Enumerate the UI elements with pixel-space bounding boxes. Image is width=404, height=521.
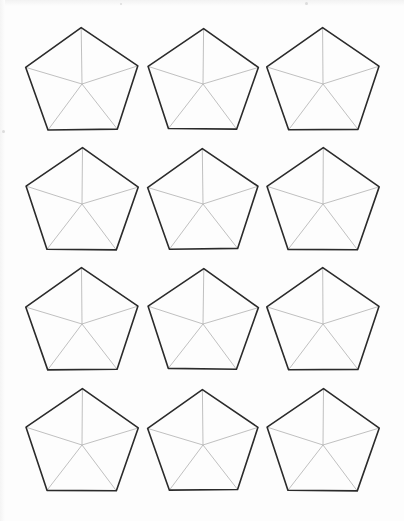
- pentagon-spoke-5: [26, 186, 82, 204]
- pentagon-spoke-1: [82, 148, 83, 204]
- pentagon-spoke-2: [82, 428, 138, 445]
- pentagon-spoke-1: [202, 390, 203, 445]
- pentagon-spoke-2: [203, 427, 258, 445]
- pentagon-spoke-5: [26, 307, 82, 324]
- pentagon-spoke-1: [203, 29, 204, 84]
- pentagon-spoke-4: [48, 84, 82, 130]
- pentagon-spoke-4: [168, 324, 203, 368]
- pentagon-spoke-2: [323, 428, 379, 445]
- pentagon-spoke-3: [323, 84, 358, 129]
- pentagon-spoke-4: [289, 324, 323, 370]
- pentagon-cell[interactable]: [148, 390, 258, 491]
- pentagon-spoke-5: [267, 67, 323, 84]
- pentagon-spoke-2: [203, 308, 258, 324]
- pentagon-spoke-3: [82, 445, 116, 491]
- pentagon-spoke-2: [82, 66, 138, 84]
- pentagon-spoke-2: [323, 66, 379, 84]
- pentagon-spoke-1: [202, 149, 203, 204]
- pentagon-cell[interactable]: [267, 148, 379, 250]
- pentagon-spoke-5: [148, 66, 203, 84]
- pentagon-spoke-5: [148, 428, 203, 445]
- pentagon-spoke-3: [82, 84, 117, 129]
- pentagon-spoke-3: [203, 204, 238, 248]
- pentagon-spoke-3: [82, 324, 117, 369]
- pentagon-cell[interactable]: [267, 389, 379, 491]
- pentagon-spoke-2: [82, 306, 138, 324]
- pentagon-spoke-3: [203, 324, 236, 369]
- pentagon-spoke-5: [26, 427, 82, 445]
- worksheet-page: [0, 0, 404, 521]
- pentagon-spoke-1: [323, 389, 324, 445]
- pentagon-spoke-4: [168, 84, 203, 128]
- pentagon-grid: [0, 0, 404, 521]
- pentagon-spoke-3: [323, 445, 357, 491]
- pentagon-spoke-3: [323, 324, 358, 369]
- pentagon-cell[interactable]: [26, 268, 138, 370]
- pentagon-spoke-3: [323, 204, 357, 250]
- pentagon-spoke-2: [203, 67, 258, 84]
- pentagon-spoke-2: [203, 186, 258, 204]
- pentagon-spoke-4: [288, 445, 323, 490]
- pentagon-spoke-4: [169, 204, 203, 249]
- pentagon-spoke-3: [203, 84, 237, 129]
- pentagon-spoke-3: [82, 204, 116, 250]
- pentagon-spoke-4: [289, 84, 323, 130]
- pentagon-spoke-2: [82, 187, 138, 204]
- pentagon-spoke-5: [267, 186, 323, 204]
- pentagon-spoke-4: [47, 204, 82, 249]
- pentagon-spoke-1: [81, 268, 82, 324]
- pentagon-spoke-5: [26, 67, 82, 84]
- pentagon-spoke-4: [169, 445, 203, 490]
- pentagon-cell[interactable]: [148, 29, 258, 130]
- pentagon-cell[interactable]: [267, 268, 379, 370]
- pentagon-spoke-2: [323, 187, 379, 204]
- pentagon-spoke-4: [288, 204, 323, 249]
- pentagon-spoke-5: [267, 427, 323, 445]
- pentagon-cell[interactable]: [267, 28, 379, 130]
- pentagon-spoke-5: [148, 188, 203, 204]
- pentagon-cell[interactable]: [148, 269, 258, 370]
- pentagon-spoke-5: [267, 307, 323, 324]
- pentagon-spoke-2: [323, 306, 379, 324]
- pentagon-spoke-1: [203, 269, 204, 324]
- pentagon-cell[interactable]: [26, 28, 138, 130]
- pentagon-spoke-4: [47, 445, 82, 490]
- pentagon-cell[interactable]: [26, 148, 138, 250]
- pentagon-spoke-3: [203, 445, 238, 489]
- pentagon-cell[interactable]: [148, 149, 258, 250]
- pentagon-spoke-4: [48, 324, 82, 370]
- pentagon-cell[interactable]: [26, 389, 138, 491]
- pentagon-spoke-1: [81, 28, 82, 84]
- pentagon-spoke-5: [148, 306, 203, 324]
